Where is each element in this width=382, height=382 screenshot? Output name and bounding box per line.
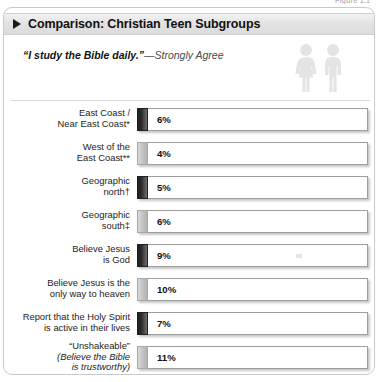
bar-chart: East Coast / Near East Coast* 6% West of… bbox=[4, 102, 374, 375]
bar-track: 6% bbox=[137, 108, 368, 131]
female-pictogram-icon bbox=[295, 44, 316, 92]
bar-row: Geographic south‡ 6% bbox=[4, 204, 374, 238]
panel-header: Comparison: Christian Teen Subgroups bbox=[4, 13, 374, 35]
bar-label-line: East Coast** bbox=[4, 153, 130, 164]
bar-label: Geographic north† bbox=[4, 176, 137, 198]
bar-label-line: is trustworthy) bbox=[4, 362, 130, 373]
bar-track: 5% bbox=[137, 176, 368, 199]
bar-track: 11% bbox=[137, 346, 368, 369]
bar-label: Report that the Holy Spirit is active in… bbox=[4, 312, 137, 334]
bar-fill bbox=[137, 142, 148, 165]
bar-track: 4% bbox=[137, 142, 368, 165]
bar-value-label: 5% bbox=[157, 182, 171, 193]
subtitle-quote: “I study the Bible daily.” bbox=[23, 49, 144, 61]
bar-fill bbox=[137, 176, 148, 199]
bar-label-line: south‡ bbox=[4, 221, 130, 232]
bar-value-label: 11% bbox=[157, 352, 176, 363]
bar-fill bbox=[137, 108, 148, 131]
bar-label: “Unshakeable” (Believe the Bible is trus… bbox=[4, 341, 137, 373]
bar-row: “Unshakeable” (Believe the Bible is trus… bbox=[4, 340, 374, 374]
page-title: Comparison: Christian Teen Subgroups bbox=[28, 17, 260, 31]
bar-value-label: 7% bbox=[157, 318, 171, 329]
chart-panel: Comparison: Christian Teen Subgroups “I … bbox=[3, 7, 375, 375]
bar-fill bbox=[137, 278, 148, 301]
bar-label-line: only way to heaven bbox=[4, 289, 130, 300]
bar-row: Believe Jesus is God 9% bbox=[4, 238, 374, 272]
bar-value-label: 9% bbox=[157, 250, 171, 261]
bar-row: Believe Jesus is the only way to heaven … bbox=[4, 272, 374, 306]
bar-value-label: 6% bbox=[157, 114, 171, 125]
subtitle-row: “I study the Bible daily.”—Strongly Agre… bbox=[4, 37, 374, 99]
subtitle: “I study the Bible daily.”—Strongly Agre… bbox=[23, 49, 224, 61]
male-pictogram-icon bbox=[325, 44, 341, 92]
bar-label-line: “Unshakeable” bbox=[4, 341, 130, 352]
subtitle-response: —Strongly Agree bbox=[144, 49, 224, 61]
bar-label-line: Near East Coast* bbox=[4, 119, 130, 130]
bar-row: Geographic north† 5% bbox=[4, 170, 374, 204]
bar-label: East Coast / Near East Coast* bbox=[4, 108, 137, 130]
bar-label-line: is active in their lives bbox=[4, 323, 130, 334]
bar-label: Believe Jesus is the only way to heaven bbox=[4, 278, 137, 300]
bar-fill bbox=[137, 312, 148, 335]
bar-row: East Coast / Near East Coast* 6% bbox=[4, 102, 374, 136]
people-pictogram-group bbox=[289, 42, 351, 94]
bar-track: 6% bbox=[137, 210, 368, 233]
bar-label: Geographic south‡ bbox=[4, 210, 137, 232]
bar-label: Believe Jesus is God bbox=[4, 244, 137, 266]
bar-track: 10% bbox=[137, 278, 368, 301]
bar-label: West of the East Coast** bbox=[4, 142, 137, 164]
bar-fill bbox=[137, 244, 148, 267]
bar-row: Report that the Holy Spirit is active in… bbox=[4, 306, 374, 340]
bar-value-label: 6% bbox=[157, 216, 171, 227]
bar-label-line: north† bbox=[4, 187, 130, 198]
bar-value-label: 4% bbox=[157, 148, 171, 159]
triangle-right-icon bbox=[13, 19, 21, 29]
bar-fill bbox=[137, 346, 148, 369]
subtitle-divider bbox=[10, 100, 370, 101]
bar-value-label: 10% bbox=[157, 284, 176, 295]
bar-fill bbox=[137, 210, 148, 233]
bar-track: 7% bbox=[137, 312, 368, 335]
bar-label-line: is God bbox=[4, 255, 130, 266]
scan-artifact bbox=[296, 254, 302, 258]
bar-row: West of the East Coast** 4% bbox=[4, 136, 374, 170]
bar-track: 9% bbox=[137, 244, 368, 267]
figure-label: Figure 1.1 bbox=[335, 0, 370, 4]
